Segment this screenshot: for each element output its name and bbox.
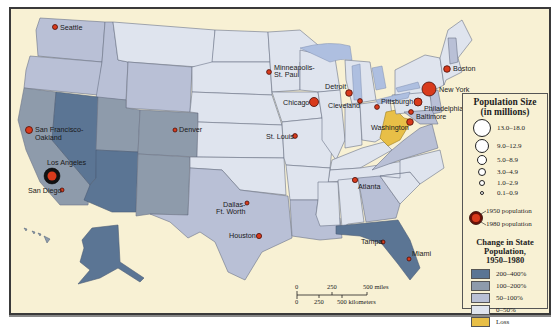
city-marker-boston[interactable] xyxy=(444,66,451,73)
city-marker-miami[interactable] xyxy=(407,257,411,261)
legend-size-row-5: 1.0–2.9 xyxy=(463,180,485,186)
swatch-200-400 xyxy=(471,269,490,279)
size-label: 1.0–2.9 xyxy=(497,179,518,187)
city-marker-seattle[interactable] xyxy=(53,25,58,30)
size-label: 13.0–18.0 xyxy=(497,124,525,132)
city-label-cleveland: Cleveland xyxy=(328,101,360,110)
legend-1950-label: 1950 population xyxy=(486,207,532,215)
legend-size-row-3: 5.0–8.9 xyxy=(463,155,487,165)
size-circle-icon xyxy=(477,155,487,165)
city-marker-denver[interactable] xyxy=(173,128,177,132)
legend-change-row-4: 0–50% xyxy=(471,305,516,315)
city-marker-chicago[interactable] xyxy=(310,98,319,107)
change-label: Loss xyxy=(496,318,509,326)
scale-km-250: 250 xyxy=(314,298,324,305)
state-montana xyxy=(113,22,215,68)
legend-change-row-5: Loss xyxy=(471,317,509,327)
city-label-miami: Miami xyxy=(412,249,432,258)
city-marker-houston[interactable] xyxy=(256,233,261,238)
city-label-seattle: Seattle xyxy=(60,23,82,32)
city-label-tampa: Tampa xyxy=(361,237,383,246)
legend-change-row-3: 50–100% xyxy=(471,293,523,303)
city-marker-los-angeles-1950 xyxy=(48,172,57,181)
city-marker-baltimore[interactable] xyxy=(409,110,414,115)
city-marker-philadelphia[interactable] xyxy=(414,98,422,106)
size-label: 5.0–8.9 xyxy=(497,156,518,164)
city-label-baltimore: Baltimore xyxy=(416,112,446,121)
city-marker-detroit[interactable] xyxy=(346,90,353,97)
city-label-houston: Houston xyxy=(229,231,256,240)
legend-change-row-2: 100–200% xyxy=(471,281,526,291)
city-label-san-francisco-2: Oakland xyxy=(35,133,62,142)
legend-1980-label: 1980 population xyxy=(486,220,532,228)
state-nebraska xyxy=(190,92,282,125)
size-label: 9.0–12.9 xyxy=(497,142,522,150)
city-marker-new-york[interactable] xyxy=(422,82,436,96)
scale-km-500: 500 kilometers xyxy=(337,298,376,305)
city-marker-san-francisco[interactable] xyxy=(26,127,33,134)
legend-change-row-1: 200–400% xyxy=(471,269,526,279)
city-label-atlanta: Atlanta xyxy=(358,182,380,191)
swatch-100-200 xyxy=(471,281,490,291)
state-florida xyxy=(336,220,420,280)
swatch-50-100 xyxy=(471,293,490,303)
size-circle-icon xyxy=(480,191,484,195)
state-new-mexico xyxy=(136,154,190,216)
state-wyoming xyxy=(126,62,192,112)
city-label-denver: Denver xyxy=(179,125,203,134)
change-label: 100–200% xyxy=(496,282,526,290)
state-indiana xyxy=(345,104,362,148)
state-mississippi xyxy=(316,182,340,226)
legend-size-row-4: 3.0–4.9 xyxy=(463,168,486,176)
scale-miles-500: 500 miles xyxy=(363,283,388,290)
swatch-loss xyxy=(471,317,490,327)
scale-km-0: 0 xyxy=(295,298,298,305)
size-circle-icon xyxy=(475,139,489,153)
legend-size-row-1: 13.0–18.0 xyxy=(463,119,491,137)
city-label-washington: Washington xyxy=(371,123,409,132)
size-label: 3.0–4.9 xyxy=(497,168,518,176)
city-label-dallas-2: Ft. Worth xyxy=(216,207,245,216)
scale-miles-0: 0 xyxy=(295,283,298,290)
city-label-boston: Boston xyxy=(453,64,475,73)
change-label: 50–100% xyxy=(496,294,523,302)
swatch-0-50 xyxy=(471,305,490,315)
state-new-hampshire xyxy=(448,38,458,64)
legend-size-row-2: 9.0–12.9 xyxy=(463,139,489,153)
state-north-dakota xyxy=(212,30,270,62)
city-label-minneapolis-2: St. Paul xyxy=(274,70,300,79)
city-marker-atlanta[interactable] xyxy=(352,177,357,182)
size-circle-icon xyxy=(479,180,485,186)
state-hawaii xyxy=(24,228,50,243)
change-label: 0–50% xyxy=(496,306,516,314)
city-label-st-louis: St. Louis xyxy=(266,132,294,141)
legend-population-title: Population Size(in millions) xyxy=(463,97,547,117)
city-marker-pittsburgh[interactable] xyxy=(375,105,380,110)
state-oregon xyxy=(24,56,102,95)
size-circle-icon xyxy=(478,168,486,176)
change-label: 200–400% xyxy=(496,270,526,278)
city-label-chicago: Chicago xyxy=(283,98,309,107)
state-south-dakota xyxy=(192,62,272,95)
legend-change-title: Change in State Population, 1950–1980 xyxy=(463,238,547,265)
city-label-san-diego: San Diego xyxy=(28,186,62,195)
legend-size-row-6: 0.1–0.9 xyxy=(463,191,484,195)
city-label-pittsburgh: Pittsburgh xyxy=(381,97,413,106)
city-marker-minneapolis[interactable] xyxy=(267,70,272,75)
city-marker-dallas[interactable] xyxy=(245,201,249,205)
size-label: 0.1–0.9 xyxy=(497,189,518,197)
state-alaska xyxy=(78,225,144,284)
city-label-detroit: Detroit xyxy=(325,82,346,91)
city-label-los-angeles: Los Angeles xyxy=(47,158,87,167)
size-circle-icon xyxy=(473,119,491,137)
scale-miles-250: 250 xyxy=(327,283,337,290)
legend-1950-1980-marker: 1950 population 1980 population xyxy=(467,208,547,230)
legend: Population Size(in millions) 13.0–18.0 9… xyxy=(462,93,548,309)
